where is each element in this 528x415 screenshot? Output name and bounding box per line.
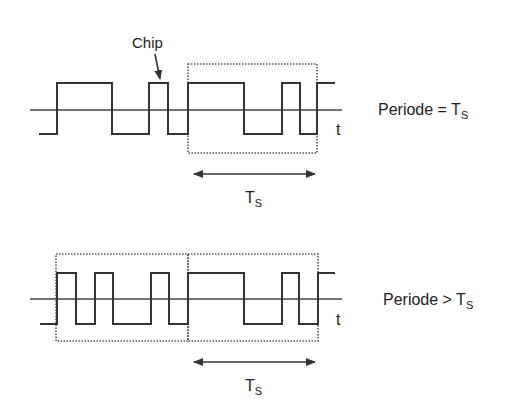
- bottom-panel: t Periode > TS TS: [30, 254, 473, 397]
- spreading-code-diagram: Chip t Periode = TS TS t Periode > TS TS: [0, 0, 528, 415]
- top-panel: Chip t Periode = TS TS: [30, 34, 468, 209]
- chip-label: Chip: [132, 34, 163, 51]
- bottom-ts-label: TS: [245, 377, 262, 397]
- top-time-axis-label: t: [336, 121, 341, 138]
- chip-pointer-arrow: [155, 54, 160, 79]
- top-chip-waveform: [39, 83, 335, 134]
- bottom-caption: Periode > TS: [383, 291, 473, 311]
- bottom-time-axis-label: t: [336, 311, 341, 328]
- top-symbol-period-box: [188, 64, 317, 153]
- top-caption: Periode = TS: [378, 101, 468, 121]
- top-ts-label: TS: [245, 189, 262, 209]
